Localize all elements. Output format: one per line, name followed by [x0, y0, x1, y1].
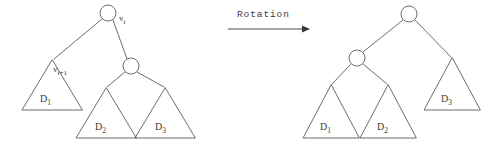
left-edge-root-to-child — [113, 20, 127, 59]
right-node-child — [349, 50, 365, 66]
left-root-label-subscript: i — [124, 18, 126, 26]
right-edge-child-to-d2 — [363, 64, 387, 84]
right-subtree-label-d3: D3 — [441, 89, 452, 107]
right-edge-child-to-d1 — [332, 64, 351, 84]
left-edge-root-to-d1 — [54, 19, 102, 59]
right-edge-root-to-d3 — [415, 20, 451, 57]
right-edge-root-to-child — [363, 20, 403, 52]
left-tree-group — [22, 5, 195, 138]
left-subtree-triangle-d1 — [22, 60, 82, 110]
diagram-canvas — [0, 0, 501, 149]
left-node-child — [123, 58, 139, 74]
left-subtree-label-d2: D2 — [95, 117, 106, 135]
left-edge-child-to-d2 — [107, 72, 125, 87]
right-d2-subscript: 2 — [384, 126, 388, 135]
left-subtree-label-d3: D3 — [155, 117, 166, 135]
left-edge-child-to-d3 — [137, 72, 164, 87]
right-d1-subscript: 1 — [327, 126, 331, 135]
left-d3-subscript: 3 — [162, 126, 166, 135]
right-subtree-label-d1: D1 — [320, 117, 331, 135]
left-subtree-triangle-d2 — [76, 88, 136, 138]
left-apex-label-subscript: i+1 — [58, 69, 67, 77]
left-subtree-apex-label: vi+1 — [53, 59, 67, 77]
right-d3-subscript: 3 — [448, 98, 452, 107]
right-subtree-triangle-d1 — [303, 85, 359, 138]
left-d2-subscript: 2 — [102, 126, 106, 135]
rotation-arrow-head-icon — [302, 25, 310, 32]
left-subtree-label-d1: D1 — [40, 89, 51, 107]
left-root-node-label: vi — [119, 8, 125, 26]
right-subtree-label-d2: D2 — [377, 117, 388, 135]
right-node-root — [401, 6, 417, 22]
right-subtree-triangle-d3 — [424, 58, 480, 110]
rotation-diagram-figure: Rotation vi vi+1 D1 D2 D3 D1 D2 D3 — [0, 0, 501, 149]
left-node-root — [100, 5, 116, 21]
rotation-label: Rotation — [237, 9, 290, 20]
left-d1-subscript: 1 — [47, 98, 51, 107]
rotation-arrow-group — [228, 25, 310, 32]
right-subtree-triangle-d2 — [360, 85, 416, 138]
